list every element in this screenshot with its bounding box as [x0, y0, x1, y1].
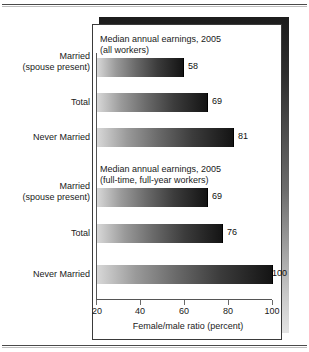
panel-1-title: Median annual earnings, 2005 (all worker… [100, 34, 221, 56]
bar-panel2-never-married [97, 265, 273, 284]
x-tick-label-80: 80 [223, 306, 233, 316]
row-label-panel2-married-line2: (spouse present) [22, 192, 90, 203]
y-axis-line [96, 53, 97, 299]
bottom-divider-rule-light [2, 347, 307, 348]
top-divider-rule-light [2, 6, 307, 7]
bottom-divider-rule [2, 345, 307, 346]
row-label-panel2-married-line1: Married [22, 181, 90, 192]
top-divider-rule [2, 4, 307, 5]
x-tick-label-100: 100 [264, 306, 279, 316]
row-label-panel2-married: Married (spouse present) [22, 181, 90, 203]
x-tick-label-60: 60 [179, 306, 189, 316]
panel-1-title-line2: (all workers) [100, 45, 221, 56]
panel-1-title-line1: Median annual earnings, 2005 [100, 34, 221, 45]
bar-panel2-total [97, 224, 223, 243]
bar-value-panel1-total: 69 [212, 96, 222, 106]
x-tick-40 [140, 300, 141, 305]
x-axis-caption: Female/male ratio (percent) [93, 321, 283, 331]
bar-value-panel1-married: 58 [188, 61, 198, 71]
row-label-panel1-married: Married (spouse present) [22, 51, 90, 73]
figure: Median annual earnings, 2005 (all worker… [0, 0, 309, 352]
x-tick-label-40: 40 [135, 306, 145, 316]
x-tick-80 [228, 300, 229, 305]
bar-panel2-married [97, 188, 208, 207]
row-label-panel1-never-married: Never Married [33, 132, 90, 143]
x-tick-20 [96, 300, 97, 305]
x-tick-100 [272, 300, 273, 305]
bar-panel1-never-married [97, 128, 234, 147]
bar-value-panel2-married: 69 [212, 191, 222, 201]
row-label-panel1-total: Total [71, 97, 90, 108]
row-label-panel1-married-line2: (spouse present) [22, 62, 90, 73]
bar-value-panel1-never-married: 81 [238, 131, 248, 141]
row-label-panel2-never-married: Never Married [33, 269, 90, 280]
bar-panel1-total [97, 93, 208, 112]
bar-panel1-married [97, 58, 184, 77]
bar-value-panel2-never-married: 100 [272, 268, 287, 278]
row-label-panel2-total: Total [71, 228, 90, 239]
x-tick-label-20: 20 [92, 306, 102, 316]
x-tick-60 [184, 300, 185, 305]
bar-value-panel2-total: 76 [227, 227, 237, 237]
row-label-panel1-married-line1: Married [22, 51, 90, 62]
panel-2-title-line1: Median annual earnings, 2005 [100, 164, 221, 175]
panel-2-title-line2: (full-time, full-year workers) [100, 175, 221, 186]
chart-panel: Median annual earnings, 2005 (all worker… [92, 24, 282, 340]
panel-2-title: Median annual earnings, 2005 (full-time,… [100, 164, 221, 186]
